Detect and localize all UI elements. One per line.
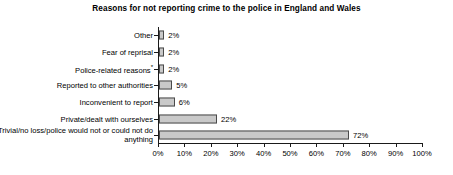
x-axis-tick-label: 100% [412, 149, 431, 158]
bar [159, 97, 175, 106]
bar-row: Private/dealt with ourselves22% [158, 110, 422, 127]
bar-row: Other2% [158, 27, 422, 44]
y-axis-tick [154, 135, 158, 136]
x-axis-tick-label: 30% [230, 149, 245, 158]
x-axis-tick [211, 143, 212, 147]
x-axis-tick [422, 143, 423, 147]
category-label: Fear of reprisal [102, 47, 153, 56]
y-axis-tick [154, 52, 158, 53]
x-axis-tick-label: 40% [256, 149, 271, 158]
x-axis-tick [316, 143, 317, 147]
bar-row: Police-related reasons*2% [158, 60, 422, 77]
bar [159, 47, 164, 56]
x-axis-tick-label: 70% [335, 149, 350, 158]
y-axis-tick [154, 85, 158, 86]
bar [159, 81, 172, 90]
x-axis-tick-label: 90% [388, 149, 403, 158]
category-label: Other [134, 31, 153, 40]
bar-value-label: 22% [221, 114, 236, 123]
x-axis-tick [264, 143, 265, 147]
bar [159, 114, 217, 123]
category-label: Private/dealt with ourselves [61, 114, 153, 123]
category-label: Police-related reasons* [75, 63, 153, 75]
x-axis-tick-label: 20% [203, 149, 218, 158]
x-axis-tick [184, 143, 185, 147]
x-axis-tick-label: 60% [309, 149, 324, 158]
x-axis-tick-label: 10% [177, 149, 192, 158]
category-label: Reported to other authorities [57, 81, 153, 90]
bar-value-label: 72% [353, 131, 368, 140]
category-label: Inconvenient to report [80, 97, 153, 106]
x-axis-tick-label: 0% [153, 149, 164, 158]
bar [159, 131, 349, 140]
bar-row: Fear of reprisal2% [158, 44, 422, 61]
bar-row: Trivial/no loss/police would not or coul… [158, 127, 422, 144]
x-axis-tick-label: 50% [282, 149, 297, 158]
x-axis-tick [158, 143, 159, 147]
bar-value-label: 5% [176, 81, 187, 90]
category-label: Trivial/no loss/police would not or coul… [0, 126, 153, 144]
x-axis-tick [343, 143, 344, 147]
bar-value-label: 6% [179, 97, 190, 106]
bar-value-label: 2% [168, 64, 179, 73]
bar-row: Reported to other authorities5% [158, 77, 422, 94]
y-axis-tick [154, 69, 158, 70]
y-axis-tick [154, 119, 158, 120]
chart-title: Reasons for not reporting crime to the p… [0, 4, 453, 13]
x-axis-tick [369, 143, 370, 147]
bar-value-label: 2% [168, 47, 179, 56]
x-axis-tick-label: 80% [362, 149, 377, 158]
x-axis-tick [237, 143, 238, 147]
bar-value-label: 2% [168, 31, 179, 40]
x-axis-tick [396, 143, 397, 147]
bar [159, 31, 164, 40]
y-axis-tick [154, 35, 158, 36]
y-axis-tick [154, 102, 158, 103]
bar-row: Inconvenient to report6% [158, 94, 422, 111]
bar [159, 64, 164, 73]
bar-chart: Reasons for not reporting crime to the p… [0, 0, 453, 175]
x-axis-tick [290, 143, 291, 147]
